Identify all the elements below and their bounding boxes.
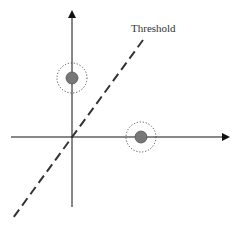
threshold-line — [13, 40, 143, 218]
point-marker — [66, 72, 78, 84]
point-marker — [135, 131, 147, 143]
threshold-label: Threshold — [131, 22, 176, 34]
threshold-diagram: Threshold — [0, 0, 240, 230]
